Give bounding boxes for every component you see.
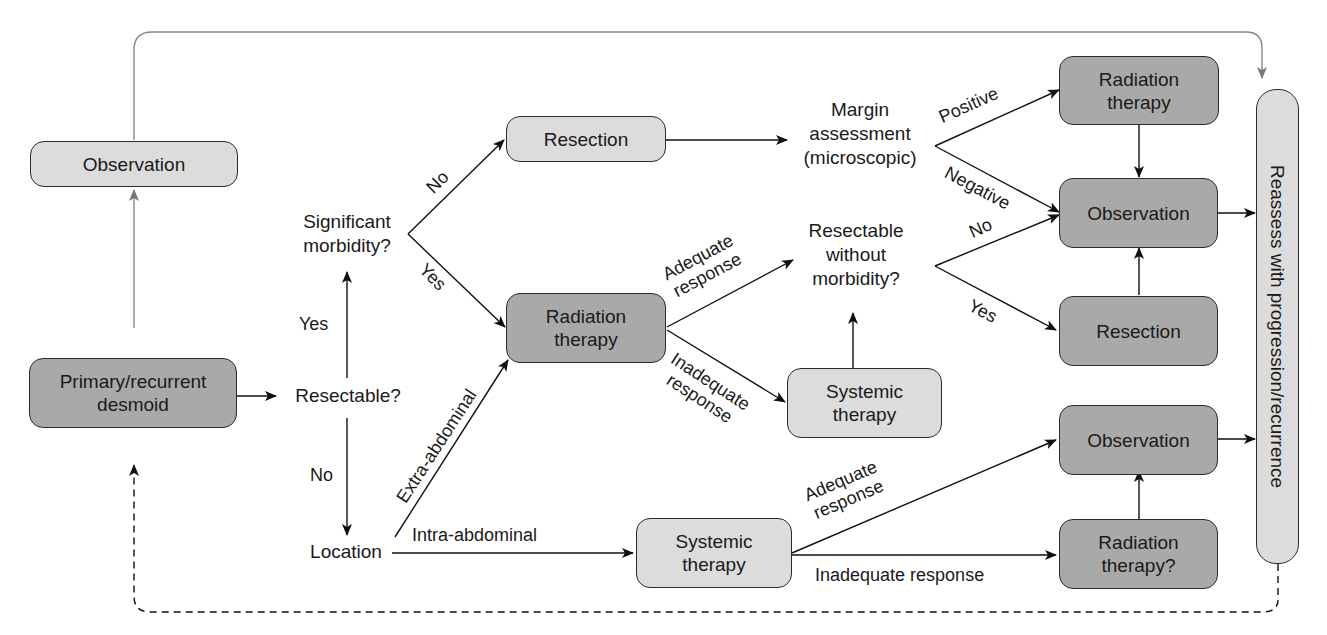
node-radiation-therapy-1: Radiation therapy xyxy=(506,293,666,363)
node-systemic-therapy-2: Systemic therapy xyxy=(636,518,792,588)
node-resection-2: Resection xyxy=(1059,296,1218,366)
label-inadequate-response-2: Inadequate response xyxy=(815,565,984,585)
node-resection-1: Resection xyxy=(506,116,666,162)
decision-location: Location xyxy=(296,540,396,564)
decision-margin-assessment: Margin assessment (microscopic) xyxy=(790,98,930,170)
node-observation-top: Observation xyxy=(30,141,238,187)
edge-rwm-yes xyxy=(935,266,1056,330)
edge-morbidity-no xyxy=(408,140,504,234)
decision-significant-morbidity: Significant morbidity? xyxy=(286,210,408,258)
edge-rwm-no xyxy=(935,215,1059,266)
label-intra-abdominal: Intra-abdominal xyxy=(412,525,537,545)
node-observation-mid: Observation xyxy=(1059,178,1218,248)
node-radiation-therapy-2: Radiation therapy xyxy=(1059,56,1219,125)
label-yes-up: Yes xyxy=(299,314,328,334)
node-observation-low: Observation xyxy=(1059,405,1218,475)
node-primary-recurrent-desmoid: Primary/recurrent desmoid xyxy=(29,358,237,428)
decision-resectable: Resectable? xyxy=(280,384,416,408)
node-radiation-therapy-question: Radiation therapy? xyxy=(1059,519,1218,589)
node-reassess: Reassess with progression/recurrence xyxy=(1256,89,1299,564)
decision-resectable-without-morbidity: Resectable without morbidity? xyxy=(793,219,919,291)
label-no-down: No xyxy=(310,465,333,485)
node-systemic-therapy-1: Systemic therapy xyxy=(787,368,942,438)
